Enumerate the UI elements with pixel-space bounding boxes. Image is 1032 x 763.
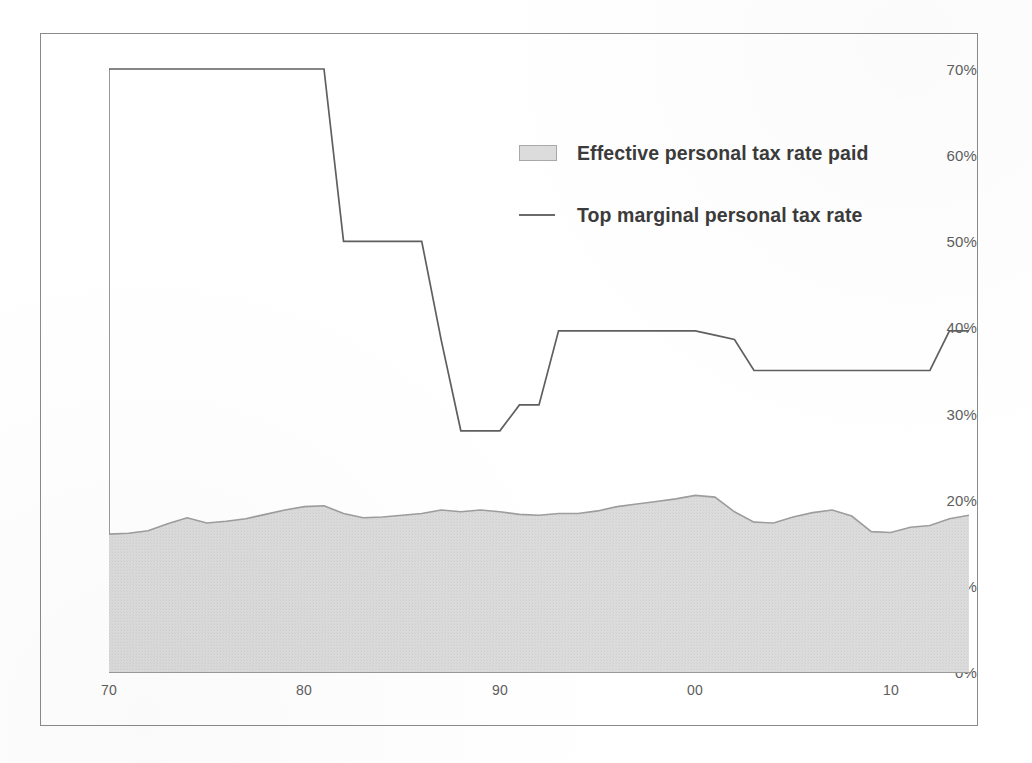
series-line-top-marginal-rate [109, 69, 969, 431]
legend-marker-cell [519, 214, 577, 217]
legend-marker-cell [519, 145, 577, 161]
area-swatch-icon [519, 145, 557, 161]
x-tick-label: 70 [101, 682, 117, 698]
x-tick-label: 00 [687, 682, 703, 698]
x-tick-label: 90 [492, 682, 508, 698]
chart-frame: 70% 60% 50% 40% 30% 20% 10% 0% 70 80 [40, 33, 978, 726]
legend-item-effective-tax-rate: Effective personal tax rate paid [519, 131, 919, 175]
x-tick-label: 10 [883, 682, 899, 698]
x-axis-line [109, 672, 970, 673]
chart-legend: Effective personal tax rate paid Top mar… [519, 131, 919, 237]
x-tick-label: 80 [296, 682, 312, 698]
legend-label: Effective personal tax rate paid [577, 142, 868, 165]
line-dash-icon [519, 214, 555, 217]
legend-item-top-marginal-rate: Top marginal personal tax rate [519, 193, 919, 237]
series-area-effective-tax-rate [109, 495, 969, 672]
legend-label: Top marginal personal tax rate [577, 204, 862, 227]
